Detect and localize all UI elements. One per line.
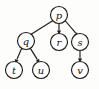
node-u-label: u <box>38 65 44 76</box>
node-p[interactable]: p <box>51 7 68 24</box>
node-q-label: q <box>23 36 29 47</box>
edge-q-to-u <box>30 48 39 63</box>
node-u[interactable]: u <box>33 62 50 79</box>
node-v-label: v <box>77 65 83 76</box>
node-r[interactable]: r <box>51 34 68 51</box>
edge-p-to-s <box>65 21 78 36</box>
node-s[interactable]: s <box>72 34 89 51</box>
node-q[interactable]: q <box>18 33 35 50</box>
graph-canvas: p q r s t u v <box>0 0 99 89</box>
edge-q-to-t <box>15 48 22 63</box>
node-v[interactable]: v <box>72 62 89 79</box>
graph-diagram: p q r s t u v <box>0 0 99 89</box>
edge-p-to-r <box>57 24 61 35</box>
node-p-label: p <box>56 10 63 21</box>
node-group: p q r s t u v <box>6 7 89 79</box>
edge-s-to-v <box>78 51 82 63</box>
node-s-label: s <box>77 37 82 48</box>
node-t[interactable]: t <box>6 62 23 79</box>
